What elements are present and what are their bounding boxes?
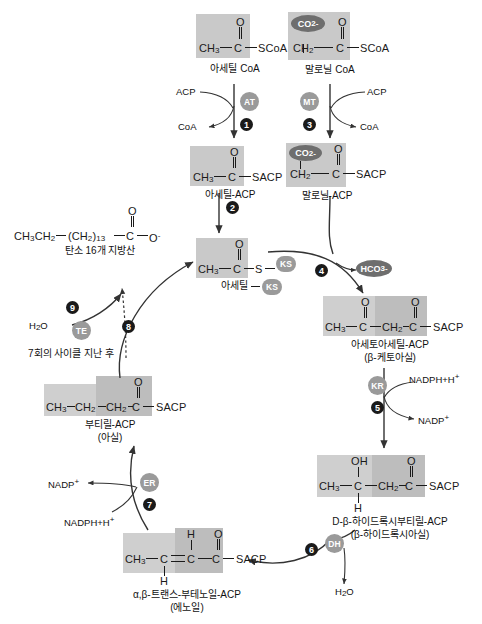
malonyl-acp-co2-oval: CO2- (289, 145, 322, 161)
bond (239, 176, 251, 177)
malonyl-coa-label: 말로닐 CoA (275, 64, 385, 76)
bond (358, 467, 360, 477)
ks-badge-structure[interactable]: KS (276, 256, 296, 272)
acetyl-coa-methyl: CH3 (199, 42, 220, 57)
double-bond (137, 387, 140, 398)
bond (346, 326, 357, 327)
malonyl-acp-thioester: SACP (356, 168, 386, 180)
bond (114, 235, 125, 236)
butenoyl-hydrogen-top: H (187, 528, 195, 540)
bond (220, 47, 232, 48)
bond (56, 235, 66, 236)
bond (191, 540, 193, 550)
nadph-input-step7: NADPH+H+ (64, 515, 114, 528)
butyryl-acp-structure: O CH3 CH2 CH2 C SACP (44, 376, 204, 420)
hydroxybutyryl-acp-label: D-β-하이드록시부티릴-ACP (300, 516, 480, 528)
nadp-output-step7: NADP+ (48, 477, 79, 490)
butyryl-methylene-1: CH2 (75, 401, 96, 416)
acetyl-coa-carbonyl-c: C (234, 42, 242, 54)
nadph-input-step5: NADPH+H+ (409, 372, 459, 385)
bond (416, 485, 427, 486)
step-bullet-9: 9 (66, 301, 79, 314)
double-bond (233, 157, 236, 168)
butyryl-acp-sublabel: (아실) (50, 432, 170, 444)
double-bond (337, 154, 340, 165)
acetyl-ks-label-dash (251, 286, 260, 287)
malonyl-coa-co2-oval: CO2- (291, 15, 325, 32)
fatty-acid-carboxyl-c: C (126, 230, 134, 242)
butenoyl-alpha-c: C (160, 553, 168, 565)
cycle-note: 7회의 사이클 지난 후 (28, 345, 114, 360)
butenoyl-acp-sublabel: (에노일) (92, 602, 282, 614)
butyryl-methyl: CH3 (46, 401, 67, 416)
acetyl-acp-carbonyl-c: C (228, 171, 236, 183)
step-bullet-2: 2 (226, 201, 239, 214)
malonyl-coa-carbonyl-c: C (336, 42, 344, 54)
hco3-oval: HCO3- (356, 260, 392, 277)
double-bond (364, 307, 367, 318)
step-bullet-3: 3 (303, 118, 316, 131)
butyryl-methylene-2: CH2 (106, 401, 127, 416)
bond (370, 326, 381, 327)
double-bond (414, 307, 417, 318)
acetyl-ks-sulfur: S (255, 263, 262, 275)
double-bond (238, 249, 241, 260)
bond (214, 176, 226, 177)
bond (347, 47, 359, 48)
coa-output-step1: CoA (178, 121, 196, 132)
butenoyl-thioester: SACP (236, 553, 266, 565)
step-bullet-6: 6 (305, 543, 318, 556)
enzyme-te[interactable]: TE (72, 321, 91, 340)
fatty-acid-carboxylate-o: O- (149, 230, 160, 244)
acetyl-coa-thioester: SCoA (258, 42, 287, 54)
ks-badge-label[interactable]: KS (262, 279, 282, 295)
bond (340, 485, 352, 486)
butenoyl-carbonyl-c: C (212, 553, 220, 565)
acetyl-acp-thioester: SACP (252, 171, 282, 183)
acetoacetyl-carbonyl-c: C (409, 321, 417, 333)
acetyl-ks-carbonyl-c: C (233, 263, 241, 275)
enzyme-kr[interactable]: KR (368, 376, 387, 395)
hydroxybutyryl-methyl: CH3 (319, 480, 340, 495)
bond (67, 406, 75, 407)
butenoyl-hydrogen-bottom: H (160, 575, 168, 587)
bond (223, 558, 234, 559)
malonyl-acp-label: 말로닐-ACP (272, 190, 382, 202)
malonyl-acp-methylene: CH2 (290, 168, 311, 183)
butenoyl-acp-structure: H O CH3 C C C SACP H (123, 525, 283, 587)
step-bullet-5: 5 (371, 401, 384, 414)
acetyl-coa-structure: O CH3 C SCoA (196, 14, 292, 60)
bond (137, 235, 148, 236)
enzyme-er[interactable]: ER (140, 473, 159, 492)
acp-input-step3: ACP (367, 86, 387, 97)
acetoacetyl-acp-label: 아세토아세틸-ACP (310, 339, 470, 351)
step-bullet-1: 1 (240, 118, 253, 131)
acetyl-acp-structure: O CH3 C SACP (190, 146, 290, 188)
butyryl-carbonyl-c: C (132, 401, 140, 413)
step-bullet-8: 8 (122, 320, 135, 333)
fatty-acid-terminal: CH3CH2 (14, 230, 55, 245)
enzyme-at[interactable]: AT (240, 92, 259, 111)
enzyme-mt[interactable]: MT (300, 92, 319, 111)
enzyme-dh[interactable]: DH (325, 534, 344, 553)
bond (219, 268, 231, 269)
butyryl-thioester: SACP (156, 401, 186, 413)
acetoacetyl-acp-structure: O O CH3 C CH2 C SACP (323, 296, 478, 338)
double-bond (171, 555, 185, 562)
co2-text: CO (298, 19, 312, 29)
step-bullet-4: 4 (315, 264, 328, 277)
h2o-output-step6: H2O (335, 586, 354, 598)
bond (314, 47, 333, 48)
hydroxybutyryl-methylene: CH2 (378, 480, 399, 495)
co2-text: CO (295, 148, 309, 158)
hco3-text: HCO (360, 264, 380, 274)
acetyl-acp-methyl: CH3 (193, 171, 214, 186)
bond (198, 558, 212, 559)
acetoacetyl-methyl: CH3 (325, 321, 346, 336)
hydroxybutyryl-carbonyl-c: C (405, 480, 413, 492)
double-bond (341, 27, 344, 39)
hydroxybutyryl-acp-structure: OH O CH3 C CH2 C SACP H (317, 452, 477, 514)
fatty-acid-structure: O CH3CH2 (CH2)13 C O- (14, 205, 184, 245)
acp-input-step1: ACP (176, 86, 196, 97)
bond (311, 173, 329, 174)
